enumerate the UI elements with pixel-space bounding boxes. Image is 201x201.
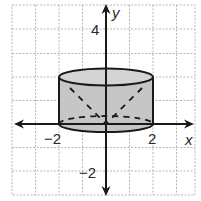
x-axis-label: x	[184, 131, 193, 148]
y-tick-label-neg2: −2	[79, 164, 96, 181]
x-tick-label-2: 2	[148, 130, 156, 147]
coordinate-plane: y x 4 −2 −2 2	[0, 0, 201, 201]
y-axis-label: y	[111, 4, 121, 21]
y-tick-label-4: 4	[91, 21, 99, 38]
x-tick-label-neg2: −2	[44, 130, 61, 147]
